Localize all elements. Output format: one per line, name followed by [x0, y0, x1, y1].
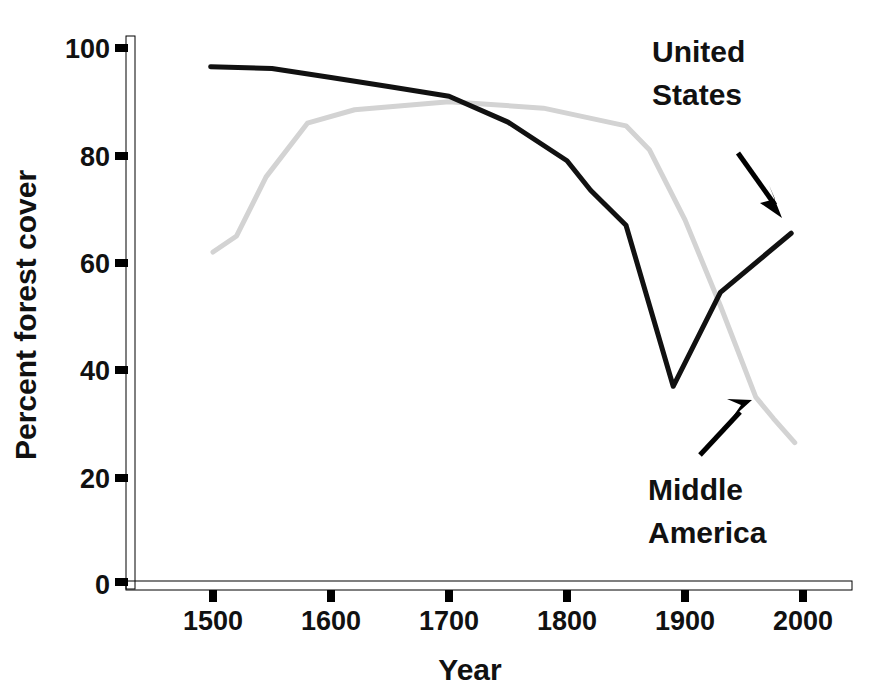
- x-tick-label-1500: 1500: [183, 606, 243, 636]
- y-axis-line: [126, 36, 135, 589]
- x-tick-label-1900: 1900: [655, 606, 715, 636]
- chart-canvas: 100 80 60 40 20 0 1500 1600 1700 1800 19…: [0, 0, 878, 699]
- x-tick-2000: [799, 590, 807, 602]
- y-tick-20: [115, 474, 128, 482]
- x-axis-line: [126, 581, 852, 590]
- y-tick-label-100: 100: [65, 34, 110, 64]
- x-tick-label-2000: 2000: [773, 606, 833, 636]
- y-tick-40: [115, 366, 128, 374]
- y-axis-tick-labels: 100 80 60 40 20 0: [65, 34, 110, 600]
- annotation-arrow-shaft-united-states: [738, 153, 775, 205]
- y-tick-label-0: 0: [95, 570, 110, 600]
- x-tick-label-1800: 1800: [537, 606, 597, 636]
- annotation-label-america: America: [648, 516, 767, 549]
- y-tick-100: [115, 44, 128, 52]
- y-tick-label-60: 60: [80, 249, 110, 279]
- x-tick-1900: [681, 590, 689, 602]
- x-axis-tick-labels: 1500 1600 1700 1800 1900 2000: [183, 606, 833, 636]
- y-axis-title: Percent forest cover: [9, 170, 42, 460]
- forest-cover-chart: 100 80 60 40 20 0 1500 1600 1700 1800 19…: [0, 0, 878, 699]
- annotation-arrow-shaft-middle-america: [700, 412, 740, 455]
- y-tick-label-40: 40: [80, 356, 110, 386]
- series-line-middle-america: [213, 102, 795, 443]
- series-line-united-states: [211, 67, 792, 387]
- y-tick-label-20: 20: [80, 464, 110, 494]
- y-tick-0: [115, 578, 128, 586]
- x-tick-1600: [327, 590, 335, 602]
- x-tick-1800: [563, 590, 571, 602]
- x-tick-1500: [209, 590, 217, 602]
- x-tick-label-1700: 1700: [419, 606, 479, 636]
- x-tick-label-1600: 1600: [301, 606, 361, 636]
- annotation-middle-america: Middle America: [648, 399, 767, 549]
- annotation-label-middle: Middle: [648, 473, 743, 506]
- x-axis-ticks: [209, 590, 807, 602]
- annotation-label-united: United: [652, 35, 745, 68]
- y-tick-80: [115, 152, 128, 160]
- x-axis-title: Year: [438, 653, 502, 686]
- annotation-label-states: States: [652, 78, 742, 111]
- y-tick-label-80: 80: [80, 142, 110, 172]
- x-tick-1700: [445, 590, 453, 602]
- y-tick-60: [115, 259, 128, 267]
